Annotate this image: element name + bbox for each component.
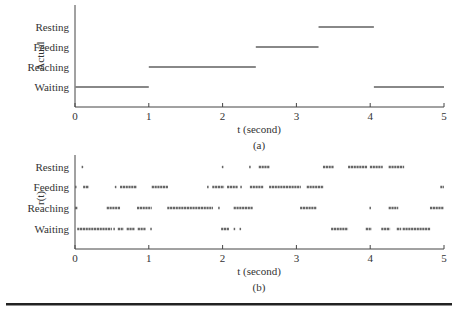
segments-b	[75, 167, 444, 229]
y-tick-label-resting: Resting	[35, 161, 69, 173]
segments-a	[75, 27, 444, 87]
x-tick-label: 2	[220, 110, 226, 122]
x-tick-label: 5	[441, 110, 447, 122]
activity-chart: 012345 WaitingReachingFeedingResting Act…	[0, 0, 462, 314]
x-tick-label: 3	[294, 110, 300, 122]
x-tick-label: 5	[441, 252, 447, 264]
x-tick-label: 3	[294, 252, 300, 264]
x-axis-label-a: t (second)	[237, 123, 281, 136]
x-ticks-b: 012345	[72, 245, 447, 264]
x-tick-label: 4	[367, 110, 373, 122]
x-tick-label: 1	[146, 252, 152, 264]
y-axis-label-a: Actual	[34, 41, 46, 70]
x-tick-label: 0	[72, 110, 78, 122]
footer-rule	[6, 303, 452, 306]
y-axis-label-b: r(t)	[34, 191, 47, 205]
x-tick-label: 0	[72, 252, 78, 264]
panel-label-a: (a)	[253, 139, 266, 152]
panel-b-recognized: 012345 WaitingReachingFeedingResting r(t…	[27, 155, 447, 294]
y-tick-label-resting: Resting	[35, 21, 69, 33]
x-tick-label: 1	[146, 110, 152, 122]
y-tick-label-waiting: Waiting	[34, 223, 69, 235]
panel-label-b: (b)	[253, 281, 266, 294]
x-tick-label: 4	[367, 252, 373, 264]
x-ticks-a: 012345	[72, 103, 447, 122]
x-axis-label-b: t (second)	[237, 265, 281, 278]
panel-a-actual: 012345 WaitingReachingFeedingResting Act…	[27, 5, 447, 152]
y-tick-label-waiting: Waiting	[34, 81, 69, 93]
x-tick-label: 2	[220, 252, 226, 264]
